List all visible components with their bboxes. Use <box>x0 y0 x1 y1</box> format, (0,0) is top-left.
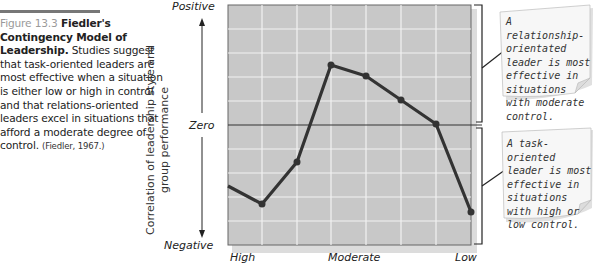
lower-note-text: A task-oriented leader is most effective… <box>507 137 593 232</box>
bracket-lower <box>474 128 505 244</box>
upper-note-text: A relationship-orientated leader is most… <box>506 15 592 123</box>
y-axis-arrow <box>199 18 205 238</box>
